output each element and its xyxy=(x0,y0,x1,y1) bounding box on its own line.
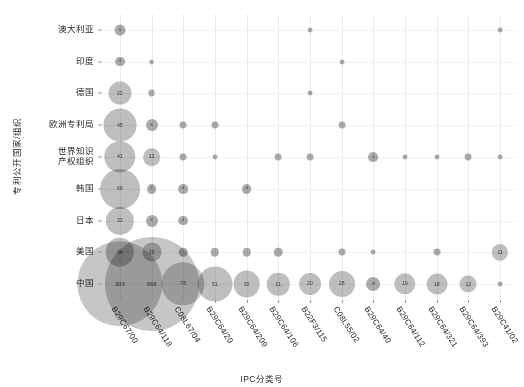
bubble-data-point: 6 xyxy=(146,215,158,227)
bubble-data-point: 4 xyxy=(115,57,125,67)
bubble-value-label: 4 xyxy=(119,59,121,63)
bubble-value-label: 18 xyxy=(434,282,440,287)
bubble-data-point xyxy=(180,154,187,161)
y-axis-tick-label: 德国 xyxy=(18,89,94,99)
bubble-value-label: 4 xyxy=(150,187,152,191)
bubble-data-point xyxy=(403,155,408,160)
x-axis-tick-mark xyxy=(437,300,438,303)
bubble-data-point: 51 xyxy=(197,267,232,302)
y-axis-tick-mark xyxy=(98,125,102,126)
y-axis-tick-label: 中国 xyxy=(18,279,94,289)
bubble-data-point xyxy=(308,91,313,96)
y-axis-tick-mark xyxy=(98,61,102,62)
gridline-horizontal xyxy=(104,62,516,63)
bubble-value-label: 13 xyxy=(149,154,155,159)
y-axis-tick-label: 世界知识 产权组织 xyxy=(18,147,94,167)
bubble-data-point xyxy=(465,154,472,161)
gridline-horizontal xyxy=(104,221,516,222)
bubble-value-label: 4 xyxy=(372,155,374,159)
bubble-data-point: 4 xyxy=(178,216,188,226)
x-axis-tick-mark xyxy=(215,300,216,303)
bubble-value-label: 4 xyxy=(245,187,247,191)
gridline-horizontal xyxy=(104,125,516,126)
bubble-data-point xyxy=(148,90,155,97)
bubble-data-point: 11 xyxy=(492,244,508,260)
y-axis-tick-mark xyxy=(98,284,102,285)
x-axis-tick-mark xyxy=(120,300,121,303)
bubble-data-point: 6 xyxy=(146,119,158,131)
y-axis-tick-mark xyxy=(98,29,102,30)
bubble-data-point: 21 xyxy=(267,273,289,295)
x-axis-tick-label: B29C64/209 xyxy=(236,305,269,349)
bubble-data-point xyxy=(339,59,344,64)
y-axis-tick-mark xyxy=(98,220,102,221)
bubble-data-point: 28 xyxy=(329,271,355,297)
bubble-value-label: 45 xyxy=(117,123,123,128)
y-axis-tick-mark xyxy=(98,93,102,94)
bubble-value-label: 30 xyxy=(244,282,250,287)
bubble-value-label: 11 xyxy=(497,250,502,255)
x-axis-tick-label: B29C64/20 xyxy=(204,305,234,345)
x-axis-tick-mark xyxy=(468,300,469,303)
x-axis-tick-label: B29C64/393 xyxy=(458,305,491,349)
bubble-value-label: 4 xyxy=(182,187,184,191)
bubble-value-label: 5 xyxy=(119,28,121,32)
x-axis-tick-label: B22F3/115 xyxy=(299,305,329,344)
x-axis-tick-mark xyxy=(152,300,153,303)
bubble-data-point: 20 xyxy=(299,273,321,295)
bubble-data-point: 4 xyxy=(368,152,378,162)
bubble-value-label: 8 xyxy=(372,282,374,286)
y-axis-tick-mark xyxy=(98,252,102,253)
y-axis-tick-mark xyxy=(98,157,102,158)
bubble-data-point xyxy=(212,155,217,160)
bubble-value-label: 28 xyxy=(339,282,345,287)
x-axis-tick-mark xyxy=(247,300,248,303)
y-axis-tick-label: 澳大利亚 xyxy=(18,25,94,35)
bubble-data-point xyxy=(274,248,282,256)
bubble-data-point: 18 xyxy=(426,274,447,295)
bubble-value-label: 51 xyxy=(212,282,218,287)
y-axis-tick-label: 美国 xyxy=(18,247,94,257)
bubble-data-point: 12 xyxy=(460,276,477,293)
bubble-data-point: 4 xyxy=(178,184,188,194)
bubble-data-point: 8 xyxy=(366,277,380,291)
bubble-data-point: 30 xyxy=(233,271,260,298)
x-axis-tick-label: B29C64/106 xyxy=(268,305,301,349)
bubble-value-label: 66 xyxy=(117,186,123,191)
bubble-data-point xyxy=(338,122,345,129)
y-axis-tick-label: 日本 xyxy=(18,216,94,226)
bubble-data-point xyxy=(308,27,313,32)
bubble-data-point xyxy=(498,282,503,287)
bubble-value-label: 6 xyxy=(150,123,152,127)
bubble-value-label: 6 xyxy=(150,218,152,222)
bubble-data-point xyxy=(434,155,439,160)
bubble-data-point xyxy=(498,155,503,160)
bubble-value-label: 4 xyxy=(182,218,184,222)
bubble-value-label: 12 xyxy=(466,282,472,287)
bubble-data-point: 33 xyxy=(106,206,134,234)
bubble-data-point xyxy=(307,154,314,161)
bubble-value-label: 19 xyxy=(402,282,408,287)
bubble-data-point: 13 xyxy=(143,148,161,166)
bubble-data-point xyxy=(211,248,219,256)
x-axis-tick-label: B29C64/321 xyxy=(426,305,459,349)
x-axis-tick-mark xyxy=(342,300,343,303)
y-axis-tick-mark xyxy=(98,188,102,189)
bubble-value-label: 20 xyxy=(307,282,313,287)
bubble-data-point: 66 xyxy=(100,169,140,209)
bubble-data-point xyxy=(242,248,250,256)
x-axis-title: IPC分类号 xyxy=(0,372,524,384)
x-axis-tick-mark xyxy=(183,300,184,303)
y-axis-tick-label: 韩国 xyxy=(18,184,94,194)
bubble-value-label: 22 xyxy=(117,91,123,96)
bubble-data-point: 4 xyxy=(242,184,252,194)
x-axis-tick-label: B29C64/40 xyxy=(363,305,393,345)
bubble-data-point xyxy=(180,122,187,129)
bubble-data-point xyxy=(498,27,503,32)
bubble-value-label: 33 xyxy=(117,218,123,223)
bubble-value-label: 41 xyxy=(117,154,123,159)
bubble-chart: 专利公开国家/组织 IPC分类号 54224564113466444336434… xyxy=(0,0,524,387)
bubble-data-point xyxy=(338,249,345,256)
y-axis-tick-label: 欧洲专利局 xyxy=(18,120,94,130)
x-axis-tick-mark xyxy=(500,300,501,303)
